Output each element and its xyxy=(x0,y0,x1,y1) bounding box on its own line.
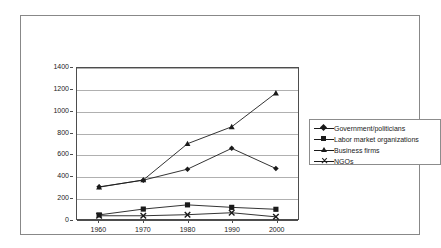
y-tick-mark xyxy=(70,89,73,90)
y-tick-mark xyxy=(70,111,73,112)
data-point-marker xyxy=(273,90,279,95)
y-tick-mark xyxy=(70,133,73,134)
plot-area xyxy=(76,67,299,220)
legend-label: Labor market organizations xyxy=(334,135,419,144)
x-tick-mark xyxy=(143,220,144,223)
legend-marker-triangle-icon xyxy=(314,146,334,155)
y-axis-labels: 0200400600800100012001400 xyxy=(29,67,73,220)
data-point-marker xyxy=(229,124,235,129)
legend-label: Government/politicians xyxy=(334,124,405,133)
y-tick-mark xyxy=(70,67,73,68)
data-point-marker xyxy=(185,141,191,146)
y-tick-label: 0 xyxy=(65,216,69,223)
x-axis-labels: 19601970198019902000 xyxy=(76,224,299,238)
series-3 xyxy=(96,90,279,189)
data-point-marker xyxy=(273,166,279,172)
legend-marker-x-icon xyxy=(314,157,334,166)
y-tick-label: 1400 xyxy=(53,63,69,70)
legend-item-1[interactable]: Government/politicians xyxy=(314,123,437,133)
y-tick-mark xyxy=(70,154,73,155)
x-tick-mark xyxy=(98,220,99,223)
legend-item-4[interactable]: NGOs xyxy=(314,156,437,166)
y-tick-mark xyxy=(70,220,73,221)
y-tick-label: 800 xyxy=(57,129,69,136)
y-tick-mark xyxy=(70,198,73,199)
x-tick-mark xyxy=(188,220,189,223)
x-tick-mark xyxy=(277,220,278,223)
legend-item-2[interactable]: Labor market organizations xyxy=(314,134,437,144)
data-point-marker xyxy=(273,207,278,212)
series-line xyxy=(99,93,276,187)
data-point-marker xyxy=(185,166,191,172)
legend-label: NGOs xyxy=(334,157,353,166)
x-tick-label: 1960 xyxy=(91,226,107,233)
chart-object-frame: 0200400600800100012001400 19601970198019… xyxy=(20,15,420,235)
x-tick-label: 1990 xyxy=(224,226,240,233)
data-point-marker xyxy=(229,146,235,152)
x-tick-label: 2000 xyxy=(269,226,285,233)
y-tick-label: 1000 xyxy=(53,107,69,114)
legend-marker-square-icon xyxy=(314,135,334,144)
chart-legend: Government/politiciansLabor market organ… xyxy=(309,119,441,165)
y-tick-label: 600 xyxy=(57,150,69,157)
y-tick-label: 400 xyxy=(57,172,69,179)
x-tick-label: 1970 xyxy=(135,226,151,233)
series-lines xyxy=(77,68,298,219)
y-tick-label: 200 xyxy=(57,194,69,201)
x-tick-label: 1980 xyxy=(180,226,196,233)
legend-marker-diamond-icon xyxy=(314,124,334,133)
data-point-marker xyxy=(229,205,234,210)
legend-item-3[interactable]: Business firms xyxy=(314,145,437,155)
legend-label: Business firms xyxy=(334,146,380,155)
data-point-marker xyxy=(185,202,190,207)
data-point-marker xyxy=(141,207,146,212)
y-tick-label: 1200 xyxy=(53,85,69,92)
y-tick-mark xyxy=(70,176,73,177)
x-tick-mark xyxy=(232,220,233,223)
